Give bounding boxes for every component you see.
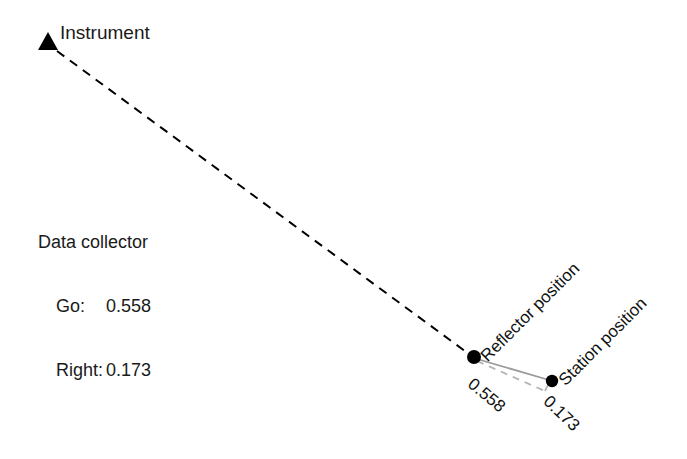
data-collector-go-value: 0.558 <box>106 296 151 316</box>
data-collector-go-label: Go: <box>56 296 106 317</box>
data-collector-right-value: 0.173 <box>106 360 151 380</box>
data-collector-readout: Data collector Go:0.558 Right:0.173 <box>38 190 151 424</box>
diagram-canvas: Instrument Data collector Go:0.558 Right… <box>0 0 687 459</box>
data-collector-right-label: Right: <box>56 360 106 381</box>
triangle-marker-icon <box>38 32 58 50</box>
data-collector-right-row: Right:0.173 <box>38 360 151 381</box>
data-collector-go-row: Go:0.558 <box>38 296 151 317</box>
data-collector-title: Data collector <box>38 232 151 253</box>
instrument-label: Instrument <box>60 22 150 44</box>
